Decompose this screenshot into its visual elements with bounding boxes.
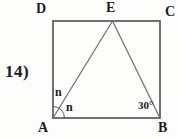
- segment-AE: [53, 21, 113, 118]
- geometry-problem-figure: 14) D E C A B n n 30°: [0, 0, 180, 139]
- angle-label-30deg-at-B: 30°: [138, 100, 153, 111]
- vertex-label-E: E: [106, 1, 115, 15]
- problem-number: 14): [5, 63, 29, 80]
- vertex-label-D: D: [36, 2, 46, 16]
- vertex-label-A: A: [38, 121, 48, 135]
- angle-label-n-lower-at-A: n: [66, 101, 73, 113]
- vertex-label-C: C: [165, 5, 175, 19]
- angle-label-n-upper-at-A: n: [55, 86, 62, 98]
- vertex-label-B: B: [158, 121, 167, 135]
